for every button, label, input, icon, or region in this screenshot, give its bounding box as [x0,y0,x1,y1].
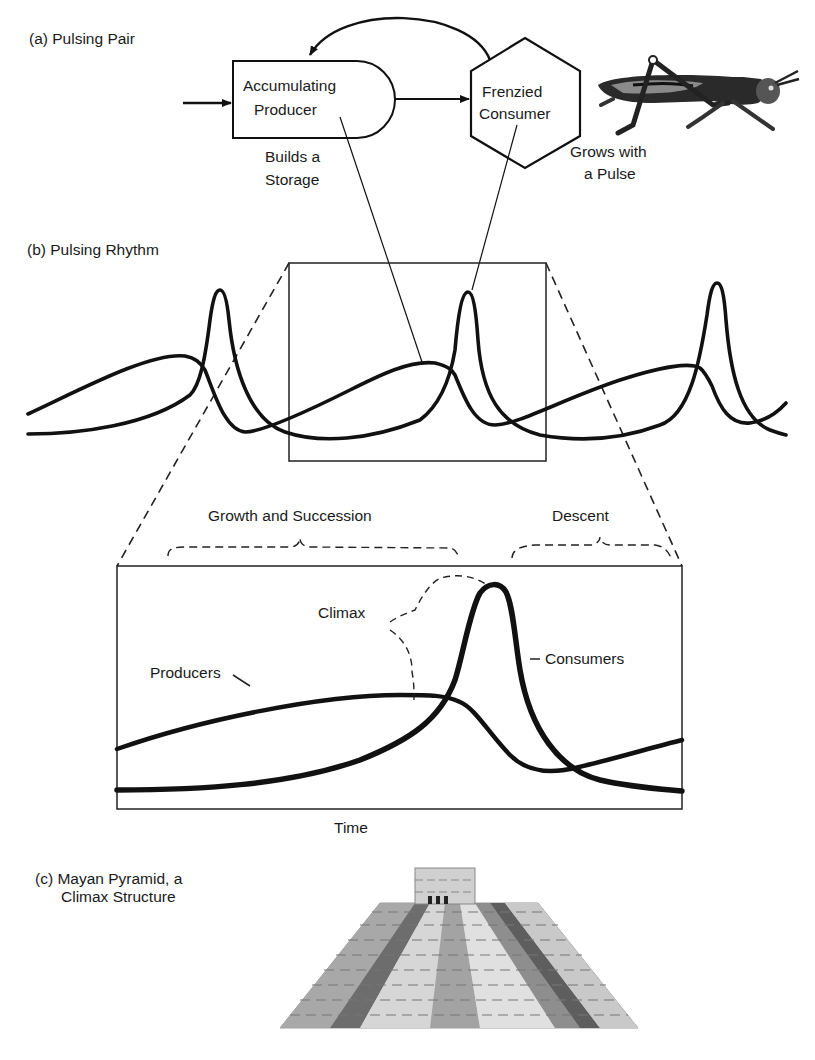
pyramid-icon [280,868,638,1028]
consumer-hexagon-shape [471,38,580,168]
producer-label-line2: Producer [254,101,317,119]
producers-label: Producers [150,664,221,682]
phase-brackets [168,537,672,560]
consumer-label-line1: Frenzied [482,83,542,101]
consumer-curve [28,283,786,439]
rhythm-curves [28,283,786,439]
climax-callouts [390,576,490,700]
panel-b-title: (b) Pulsing Rhythm [27,241,159,259]
consumers-label: Consumers [545,650,624,668]
label-leaders [233,659,540,686]
detail-consumer-curve [117,585,682,791]
growth-bracket [168,538,459,559]
detail-curves [117,585,682,791]
climax-label: Climax [318,604,365,622]
detail-producer-curve [117,695,682,771]
producer-label-line1: Accumulating [243,77,336,95]
pulsing-pair-diagram [183,18,580,362]
producer-storage-shape [233,61,395,138]
detail-plot-frame [117,566,682,809]
time-axis-label: Time [334,819,368,837]
feedback-arrow [310,18,490,60]
consumer-caption-line1: Grows with [570,143,647,161]
grasshopper-icon [598,56,799,133]
growth-succession-label: Growth and Succession [208,507,372,525]
panel-a-title: (a) Pulsing Pair [29,30,135,48]
producer-leader-line [340,117,422,362]
producer-curve [28,356,786,432]
producer-caption-line2: Storage [265,171,319,189]
panel-c-title-line2: Climax Structure [61,888,176,906]
consumer-caption-line2: a Pulse [584,165,636,183]
producer-caption-line1: Builds a [265,148,320,166]
descent-bracket [512,537,672,560]
consumer-label-line2: Consumer [479,105,551,123]
descent-label: Descent [552,507,609,525]
panel-c-title-line1: (c) Mayan Pyramid, a [35,870,182,888]
